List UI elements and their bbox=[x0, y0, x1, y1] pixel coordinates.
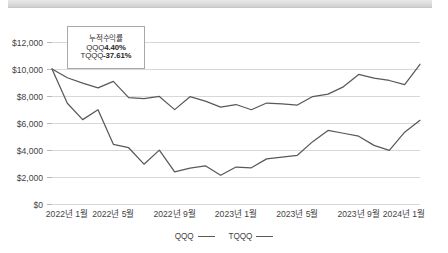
x-axis-label: 2023년 5월 bbox=[276, 208, 318, 219]
legend-item-tqqq: TQQQ bbox=[229, 232, 274, 241]
x-axis-label: 2022년 5월 bbox=[92, 208, 134, 219]
annotation-row-qqq: QQQ4.40% bbox=[86, 44, 126, 52]
annotation-ticker-qqq: QQQ bbox=[86, 43, 104, 52]
x-axis-labels-group: 2022년 1월2022년 5월2022년 9월2023년 1월2023년 5월… bbox=[46, 208, 425, 219]
y-axis-label: $2,000 bbox=[17, 173, 44, 183]
x-axis-label: 2024년 1월 bbox=[383, 208, 425, 219]
y-axis-ticks-group bbox=[47, 43, 52, 205]
legend-label-qqq: QQQ bbox=[175, 232, 194, 241]
y-axis-label: $6,000 bbox=[17, 119, 44, 129]
y-axis-label: $4,000 bbox=[17, 146, 44, 156]
legend-line-swatch-tqqq bbox=[256, 236, 273, 237]
x-axis-label: 2022년 9월 bbox=[154, 208, 196, 219]
chart-legend: QQQ TQQQ bbox=[0, 232, 448, 241]
chart-container: $0$2,000$4,000$6,000$8,000$10,000$12,000… bbox=[0, 0, 448, 253]
y-axis-labels-group: $0$2,000$4,000$6,000$8,000$10,000$12,000 bbox=[12, 38, 43, 210]
annotation-value-tqqq: -37.61% bbox=[103, 51, 131, 60]
y-axis-label: $10,000 bbox=[12, 65, 43, 75]
annotation-value-qqq: 4.40% bbox=[104, 43, 126, 52]
x-axis-label: 2023년 1월 bbox=[215, 208, 257, 219]
series-line-tqqq bbox=[52, 69, 420, 175]
x-axis-label: 2023년 9월 bbox=[338, 208, 380, 219]
legend-label-tqqq: TQQQ bbox=[229, 232, 253, 241]
annotation-row-tqqq: TQQQ-37.61% bbox=[81, 52, 132, 60]
y-axis-label: $8,000 bbox=[17, 92, 44, 102]
annotation-title: 누적수익률 bbox=[89, 35, 123, 43]
series-line-qqq bbox=[52, 64, 420, 109]
series-group bbox=[52, 64, 420, 175]
y-axis-label: $12,000 bbox=[12, 38, 43, 48]
cumulative-return-annotation: 누적수익률 QQQ4.40% TQQQ-37.61% bbox=[67, 26, 145, 69]
x-axis-label: 2022년 1월 bbox=[46, 208, 88, 219]
y-axis-label: $0 bbox=[33, 200, 43, 210]
legend-item-qqq: QQQ bbox=[175, 232, 215, 241]
annotation-ticker-tqqq: TQQQ bbox=[81, 51, 104, 60]
legend-line-swatch-qqq bbox=[198, 236, 215, 237]
